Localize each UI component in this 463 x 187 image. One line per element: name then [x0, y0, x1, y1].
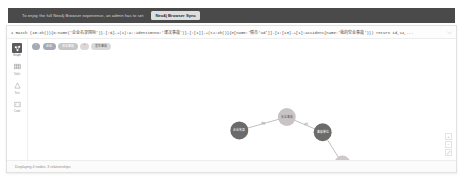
graph-visualization[interactable]: 企业名录 安全事故 事故单位 伤亡信息 发生 涉及 [28, 39, 456, 160]
graph-node [334, 156, 350, 160]
graph-icon [12, 43, 22, 53]
graph-canvas[interactable]: * 企业 安全事故 * 发生事故 企业名录 [28, 39, 456, 160]
graph-node [230, 121, 248, 139]
legend-chip-node-2[interactable]: 安全事故 [58, 43, 77, 50]
zoom-out-button[interactable]: − [445, 141, 452, 148]
frame-status-bar: Displaying 4 nodes, 3 relationships [7, 160, 456, 172]
legend-chip-node-1[interactable]: 企业 [43, 43, 56, 50]
legend-chip-any-node[interactable]: * [32, 43, 40, 50]
result-frame: 1 match (10:zh()){o:name('企业名录国际')}-[:$]… [6, 25, 457, 173]
text-icon [12, 81, 22, 91]
graph-node [314, 123, 332, 141]
neo4j-browser-sync-button[interactable]: Neo4j Browser Sync [151, 11, 200, 20]
zoom-controls: + − ⤢ [445, 133, 452, 156]
sidebar-item-table-label: Table [14, 73, 21, 76]
banner-message: To enjoy the full Neo4j Browser experien… [22, 13, 143, 18]
legend-chip-rel-1[interactable]: 发生事故 [91, 43, 110, 50]
graph-legend: * 企业 安全事故 * 发生事故 [32, 43, 232, 50]
code-icon [12, 99, 22, 109]
graph-nodes[interactable]: 企业名录 安全事故 事故单位 伤亡信息 [230, 108, 350, 160]
expand-icon[interactable] [447, 30, 452, 35]
neo4j-browser-window: To enjoy the full Neo4j Browser experien… [0, 0, 463, 187]
sidebar-item-code-label: Code [14, 110, 21, 113]
sidebar-item-graph-label: Graph [13, 54, 21, 57]
sidebar-item-code[interactable]: Code [9, 99, 26, 113]
sidebar-item-text-label: Text [14, 92, 19, 95]
graph-node [278, 108, 296, 126]
cypher-query-text[interactable]: 1 match (10:zh()){o:name('企业名录国际')}-[:$]… [11, 29, 443, 35]
zoom-fit-button[interactable]: ⤢ [445, 149, 452, 156]
zoom-in-button[interactable]: + [445, 133, 452, 140]
warning-banner: To enjoy the full Neo4j Browser experien… [8, 8, 455, 23]
status-text: Displaying 4 nodes, 3 relationships [15, 165, 71, 169]
sidebar-item-table[interactable]: Table [9, 62, 26, 76]
table-icon [12, 62, 22, 72]
legend-chip-any-rel[interactable]: * [80, 43, 88, 50]
query-editor-bar[interactable]: 1 match (10:zh()){o:name('企业名录国际')}-[:$]… [7, 26, 456, 39]
frame-actions [443, 30, 452, 35]
sidebar-item-text[interactable]: Text [9, 81, 26, 95]
sidebar-item-graph[interactable]: Graph [9, 43, 26, 57]
frame-body: Graph Table [7, 39, 456, 160]
result-view-sidebar: Graph Table [7, 39, 28, 160]
